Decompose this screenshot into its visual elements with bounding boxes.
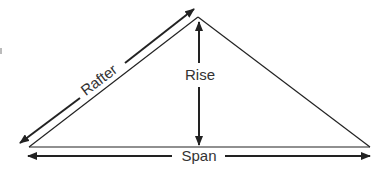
rafter-arrow-upper	[125, 9, 194, 63]
rafter-dimension: Rafter	[20, 9, 194, 143]
span-dimension: Span	[28, 147, 370, 164]
rise-dimension: Rise	[185, 22, 215, 145]
edge-artifact	[0, 48, 2, 54]
rafter-arrow-lower	[20, 98, 80, 143]
span-label: Span	[181, 147, 216, 164]
rafter-diagram: Rafter Rise Span	[0, 0, 385, 177]
roof-slope-right	[198, 17, 370, 147]
roof-slope-left	[29, 17, 198, 147]
rise-label: Rise	[185, 66, 215, 83]
